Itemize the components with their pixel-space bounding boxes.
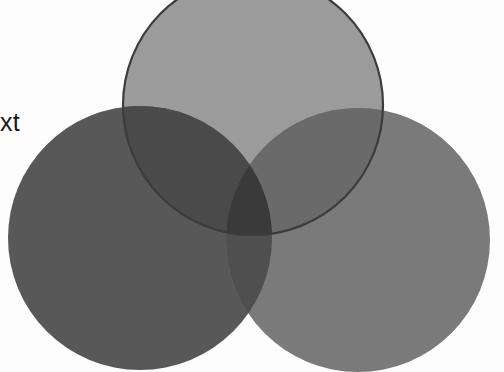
venn-diagram-svg [0,0,504,372]
venn-diagram-canvas: ext [0,0,504,372]
clipped-left-label: ext [0,110,20,135]
